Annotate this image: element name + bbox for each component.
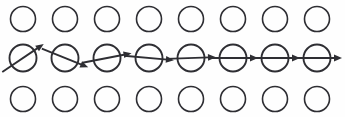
spin-alignment-figure bbox=[0, 0, 345, 117]
circle-outline bbox=[305, 87, 330, 112]
empty-circle bbox=[95, 87, 120, 112]
empty-circle bbox=[263, 87, 288, 112]
circle-outline bbox=[305, 7, 330, 32]
circle-outline bbox=[137, 7, 162, 32]
circle-outline bbox=[179, 7, 204, 32]
arrow-shaft bbox=[124, 56, 167, 60]
circle-outline bbox=[263, 87, 288, 112]
circle-outline bbox=[95, 7, 120, 32]
bottom-row-group bbox=[11, 87, 330, 112]
middle-row-group bbox=[2, 44, 342, 72]
empty-circle bbox=[221, 87, 246, 112]
arrow-head-icon bbox=[334, 55, 342, 62]
empty-circle bbox=[179, 7, 204, 32]
circle-outline bbox=[263, 7, 288, 32]
empty-circle bbox=[53, 7, 78, 32]
empty-circle bbox=[137, 87, 162, 112]
arrow-shaft bbox=[166, 57, 209, 59]
arrow-head-icon bbox=[35, 44, 44, 51]
spin-circle-with-arrow bbox=[292, 45, 342, 72]
empty-circle bbox=[221, 7, 246, 32]
empty-circle bbox=[305, 7, 330, 32]
figure-canvas bbox=[0, 0, 345, 117]
circle-outline bbox=[221, 87, 246, 112]
circle-outline bbox=[137, 87, 162, 112]
empty-circle bbox=[179, 87, 204, 112]
circle-outline bbox=[53, 87, 78, 112]
empty-circle bbox=[53, 87, 78, 112]
empty-circle bbox=[11, 87, 36, 112]
spin-circle-with-arrow bbox=[82, 45, 131, 72]
empty-circle bbox=[95, 7, 120, 32]
circle-outline bbox=[221, 7, 246, 32]
spin-circle-with-arrow bbox=[2, 44, 43, 72]
empty-circle bbox=[305, 87, 330, 112]
circle-outline bbox=[179, 87, 204, 112]
spin-circle-with-arrow bbox=[42, 45, 88, 72]
empty-circle bbox=[11, 7, 36, 32]
top-row-group bbox=[11, 7, 330, 32]
empty-circle bbox=[137, 7, 162, 32]
circle-outline bbox=[11, 87, 36, 112]
circle-outline bbox=[53, 7, 78, 32]
empty-circle bbox=[263, 7, 288, 32]
arrow-shaft bbox=[82, 54, 125, 62]
circle-outline bbox=[95, 87, 120, 112]
circle-outline bbox=[11, 7, 36, 32]
